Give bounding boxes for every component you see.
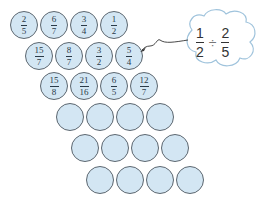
cloud-left-fraction: 1 2 — [196, 26, 204, 59]
fraction-bar — [221, 42, 229, 43]
pointer-arrow — [142, 40, 188, 50]
fraction-bar — [196, 42, 204, 43]
numerator: 1 — [196, 26, 204, 40]
cloud-expression: 1 2 ÷ 2 5 — [196, 26, 229, 59]
cloud-right-fraction: 2 5 — [221, 26, 229, 59]
denominator: 5 — [221, 45, 229, 59]
numerator: 2 — [221, 26, 229, 40]
denominator: 2 — [196, 45, 204, 59]
divide-operator: ÷ — [209, 35, 217, 51]
arrowhead-icon — [140, 47, 146, 52]
